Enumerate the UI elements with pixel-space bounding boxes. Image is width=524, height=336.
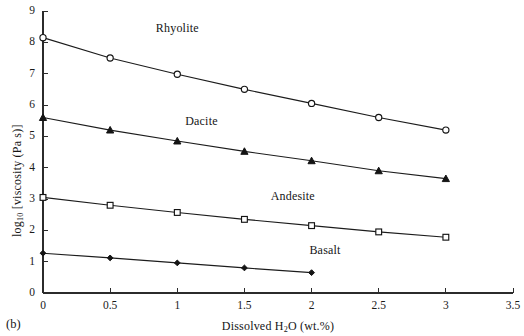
subscript: 10 (16, 212, 25, 221)
x-tick-label: 1.5 (237, 300, 251, 312)
series-label-andesite: Andesite (271, 189, 315, 204)
y-tick-label: 8 (0, 37, 35, 49)
data-point-marker (107, 255, 113, 261)
data-point-marker (309, 270, 315, 276)
chart-plot-area (0, 0, 524, 336)
data-point-marker (308, 100, 314, 106)
panel-label: (b) (6, 317, 21, 332)
x-tick-label: 2 (309, 300, 315, 312)
data-point-marker (242, 216, 248, 222)
x-tick-label: 1 (174, 300, 180, 312)
data-point-marker (40, 195, 46, 201)
series-label-basalt: Basalt (309, 242, 340, 257)
y-tick-label: 7 (0, 68, 35, 80)
data-point-marker (40, 250, 46, 256)
data-point-marker (443, 234, 449, 240)
series-label-rhyolite: Rhyolite (156, 21, 199, 36)
data-point-marker (107, 55, 113, 61)
series-line-rhyolite (43, 38, 446, 130)
x-tick-label: 0 (40, 300, 46, 312)
data-point-marker (242, 265, 248, 271)
data-point-marker (309, 223, 315, 229)
data-point-marker (174, 210, 180, 216)
data-point-marker (376, 114, 382, 120)
y-tick-label: 0 (0, 287, 35, 299)
data-point-marker (443, 127, 449, 133)
data-point-marker (40, 35, 46, 41)
x-tick-label: 3.5 (506, 300, 520, 312)
x-tick-label: 2.5 (372, 300, 386, 312)
data-point-marker (107, 202, 113, 208)
x-tick-label: 0.5 (103, 300, 117, 312)
y-tick-label: 1 (0, 256, 35, 268)
series-basalt (40, 250, 314, 275)
x-axis-title: Dissolved H2O (wt.%) (222, 319, 334, 334)
series-label-dacite: Dacite (185, 113, 218, 128)
series-dacite (39, 114, 449, 182)
y-tick-label: 6 (0, 99, 35, 111)
x-tick-label: 3 (443, 300, 449, 312)
series-group (39, 35, 449, 276)
data-point-marker (376, 229, 382, 235)
y-axis-title: log10 [viscosity (Pa s)] (10, 124, 25, 237)
data-point-marker (174, 71, 180, 77)
figure-panel: 00.511.522.533.50123456789RhyoliteDacite… (0, 0, 524, 336)
axes-group (43, 11, 513, 293)
data-point-marker (174, 260, 180, 266)
data-point-marker (39, 114, 46, 121)
series-rhyolite (40, 35, 449, 134)
subscript: 2 (284, 325, 288, 334)
data-point-marker (241, 86, 247, 92)
series-andesite (40, 195, 449, 241)
y-tick-label: 9 (0, 5, 35, 17)
